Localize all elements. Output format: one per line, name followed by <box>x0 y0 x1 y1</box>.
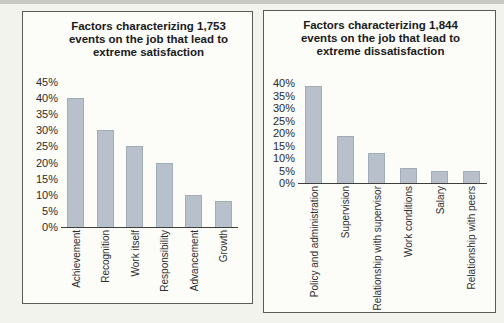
x-category-label: Work conditions <box>392 186 424 316</box>
chart-body: 45%40%35%30%25%20%15%10%5%0% Achievement… <box>23 82 252 306</box>
y-tick-label: 45% <box>36 75 58 89</box>
bar-column <box>361 153 393 183</box>
x-label-column: Achievement <box>61 230 91 306</box>
x-category-label: Policy and administration <box>298 186 330 316</box>
bar <box>185 195 202 227</box>
x-category-label: Growth <box>207 230 239 306</box>
y-tick-label: 20% <box>36 156 58 170</box>
bar-column <box>393 168 425 183</box>
x-category-label: Work itself <box>119 230 151 306</box>
x-category-label: Achievement <box>60 230 92 306</box>
bar <box>463 171 480 184</box>
bar <box>156 163 173 227</box>
bar <box>97 130 114 227</box>
chart-title: Factors characterizing 1,844events on th… <box>264 11 495 58</box>
bar-column <box>456 171 488 184</box>
chart-title: Factors characterizing 1,753events on th… <box>23 12 252 59</box>
bar-column <box>298 86 330 184</box>
y-tick-label: 35% <box>36 107 58 121</box>
y-axis: 40%35%30%25%20%15%10%5%0% <box>269 83 298 183</box>
bar-column <box>424 171 456 184</box>
x-category-label: Supervision <box>329 186 361 316</box>
bar <box>126 146 143 227</box>
x-category-label: Advancement <box>178 230 210 306</box>
x-category-label: Recognition <box>89 230 121 306</box>
x-label-column: Responsibility <box>150 230 180 306</box>
x-axis-labels: AchievementRecognitionWork itselfRespons… <box>61 228 238 306</box>
x-label-column: Salary <box>424 186 456 316</box>
figure-panels: Factors characterizing 1,753events on th… <box>22 10 496 313</box>
scan-edge-band <box>0 0 504 4</box>
x-label-column: Work itself <box>120 230 150 306</box>
bar <box>368 153 385 183</box>
bar <box>215 201 232 227</box>
bar-column <box>91 130 121 227</box>
y-tick-label: 40% <box>36 91 58 105</box>
y-tick-label: 30% <box>36 123 58 137</box>
y-tick-label: 10% <box>36 188 58 202</box>
x-label-column: Recognition <box>91 230 121 306</box>
y-tick-label: 0% <box>42 220 58 234</box>
bar-column <box>179 195 209 227</box>
bar <box>337 136 354 184</box>
plot-area <box>298 83 487 184</box>
x-label-column: Relationship with supervisor <box>361 186 393 316</box>
y-axis: 45%40%35%30%25%20%15%10%5%0% <box>32 82 61 227</box>
x-label-column: Work conditions <box>393 186 425 316</box>
y-tick-label: 5% <box>42 204 58 218</box>
plot-wrap: Policy and administrationSupervisionRela… <box>298 83 487 316</box>
bar-column <box>150 163 180 227</box>
bar <box>431 171 448 184</box>
x-label-column: Relationship with peers <box>456 186 488 316</box>
y-tick-label: 15% <box>36 172 58 186</box>
x-category-label: Relationship with peers <box>455 186 487 316</box>
x-category-label: Salary <box>424 186 456 316</box>
x-category-label: Relationship with supervisor <box>361 186 393 316</box>
y-tick-label: 25% <box>36 139 58 153</box>
x-label-column: Policy and administration <box>298 186 330 316</box>
plot-area <box>61 82 238 228</box>
x-category-label: Responsibility <box>148 230 180 306</box>
satisfaction-chart-panel: Factors characterizing 1,753events on th… <box>22 11 253 304</box>
bar-column <box>330 136 362 184</box>
plot-wrap: AchievementRecognitionWork itselfRespons… <box>61 82 238 306</box>
dissatisfaction-chart-panel: Factors characterizing 1,844events on th… <box>263 10 496 313</box>
x-label-column: Supervision <box>330 186 362 316</box>
bar <box>400 168 417 183</box>
bar <box>67 98 84 227</box>
bar-column <box>120 146 150 227</box>
x-label-column: Growth <box>209 230 239 306</box>
bar-column <box>61 98 91 227</box>
bar <box>305 86 322 184</box>
y-tick-label: 0% <box>279 176 295 190</box>
bar-column <box>209 201 239 227</box>
x-axis-labels: Policy and administrationSupervisionRela… <box>298 184 487 316</box>
chart-body: 40%35%30%25%20%15%10%5%0% Policy and adm… <box>264 83 495 316</box>
x-label-column: Advancement <box>179 230 209 306</box>
